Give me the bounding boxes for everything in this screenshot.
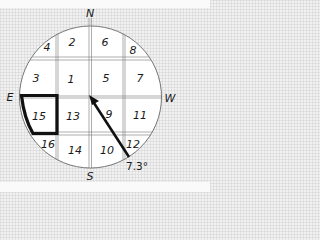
cell-6: 6 <box>102 36 109 49</box>
cell-7: 7 <box>137 72 144 85</box>
north-label: N <box>86 7 94 20</box>
south-label: S <box>87 170 94 183</box>
cell-5: 5 <box>103 72 110 85</box>
cell-13: 13 <box>66 110 80 123</box>
west-label: W <box>165 92 177 105</box>
cell-8: 8 <box>130 44 137 57</box>
cell-1: 1 <box>68 73 75 86</box>
cell-10: 10 <box>100 144 114 157</box>
cell-2: 2 <box>69 36 76 49</box>
cell-16: 16 <box>41 138 55 151</box>
cell-12: 12 <box>126 138 140 151</box>
cell-4: 4 <box>44 41 51 54</box>
cell-9: 9 <box>106 108 113 121</box>
east-label: E <box>7 91 14 104</box>
compass-grid-diagram: N S E W 4 2 6 8 3 1 5 7 15 13 9 11 16 14… <box>0 0 210 192</box>
cell-11: 11 <box>133 109 147 122</box>
cell-15: 15 <box>32 110 46 123</box>
cell-3: 3 <box>33 72 40 85</box>
angle-label: 7.3° <box>126 160 148 172</box>
cell-14: 14 <box>68 144 82 157</box>
